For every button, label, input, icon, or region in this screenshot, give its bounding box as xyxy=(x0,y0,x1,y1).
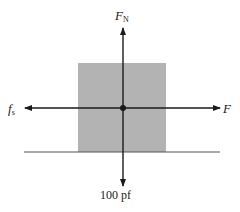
weight-label: 100 pf xyxy=(100,188,131,203)
free-body-diagram: FN fs F 100 pf xyxy=(0,0,240,212)
center-point xyxy=(120,105,126,111)
normal-force-symbol: F xyxy=(115,8,123,23)
normal-force-label: FN xyxy=(115,8,129,24)
applied-force-label: F xyxy=(223,101,231,117)
friction-subscript: s xyxy=(12,108,15,117)
diagram-canvas xyxy=(0,0,240,212)
normal-force-subscript: N xyxy=(123,15,129,24)
friction-label: fs xyxy=(8,101,15,117)
